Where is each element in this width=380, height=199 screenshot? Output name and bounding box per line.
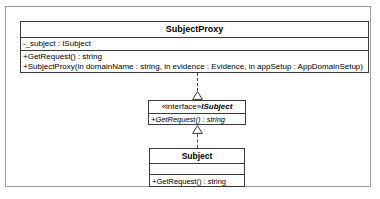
dashed-line (197, 73, 198, 91)
interface-title-compartment: «interface»ISubject (149, 101, 245, 113)
interface-stereotype: «interface» (162, 102, 202, 111)
realization-connector-subjectproxy-to-isubject (192, 73, 204, 100)
realization-connector-subject-to-isubject (192, 125, 204, 148)
operation-item: +GetRequest() : string (151, 115, 243, 124)
diagram-frame: SubjectProxy -_subject : ISubject +GetRe… (5, 6, 371, 187)
attribute-item: -_subject : ISubject (23, 39, 366, 49)
class-title-compartment: Subject (150, 149, 244, 163)
class-name-isubject: ISubject (201, 102, 232, 111)
class-attributes-compartment: -_subject : ISubject (21, 37, 368, 50)
class-title-compartment: SubjectProxy (21, 22, 368, 37)
class-operations-compartment: +GetRequest() : string (150, 174, 244, 187)
class-attributes-compartment (150, 163, 244, 174)
class-name-subject: Subject (152, 151, 242, 161)
interface-operations-compartment: +GetRequest() : string (149, 113, 245, 124)
hollow-triangle-arrowhead-icon (192, 91, 203, 100)
interface-header: «interface»ISubject (151, 102, 243, 112)
class-box-subject[interactable]: Subject +GetRequest() : string (149, 148, 245, 187)
operation-item: +GetRequest() : string (23, 52, 366, 62)
operation-item: +SubjectProxy(in domainName : string, in… (23, 62, 366, 72)
class-operations-compartment: +GetRequest() : string +SubjectProxy(in … (21, 50, 368, 72)
class-box-isubject[interactable]: «interface»ISubject +GetRequest() : stri… (148, 100, 246, 125)
class-name-subjectproxy: SubjectProxy (23, 24, 366, 35)
class-box-subjectproxy[interactable]: SubjectProxy -_subject : ISubject +GetRe… (20, 21, 369, 73)
dashed-line (197, 134, 198, 148)
hollow-triangle-arrowhead-icon (192, 125, 203, 134)
operation-item: +GetRequest() : string (152, 177, 242, 186)
